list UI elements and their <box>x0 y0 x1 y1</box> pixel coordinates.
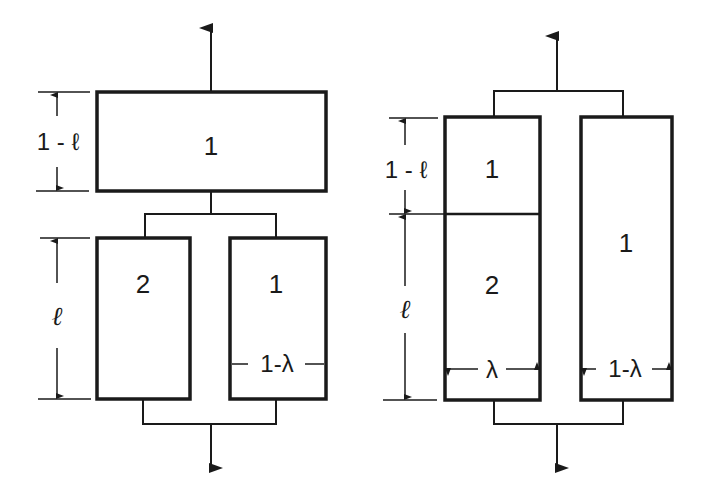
merge-bar <box>143 399 276 424</box>
label-left-lower-box: 2 <box>485 270 499 300</box>
dim-label-l: ℓ <box>52 301 63 331</box>
dim-label-1-minus-lambda: 1-λ <box>608 355 641 382</box>
dim-label-lambda: λ <box>486 356 498 383</box>
right-labels: 1 2 1 1 - ℓ ℓ λ 1-λ <box>385 154 642 383</box>
dim-label-l: ℓ <box>400 294 411 324</box>
left-labels: 1 2 1 1 - ℓ ℓ 1-λ <box>37 128 294 377</box>
merge-bar <box>494 400 623 424</box>
left-diagram <box>36 28 326 468</box>
label-top-box: 1 <box>204 131 218 161</box>
splitter-bar <box>145 214 276 237</box>
label-left-upper-box: 1 <box>485 154 499 184</box>
label-bottom-right-box: 1 <box>269 269 283 299</box>
splitter-bar <box>494 91 623 116</box>
dim-label-1-minus-l: 1 - ℓ <box>37 128 80 155</box>
dim-label-1-minus-l: 1 - ℓ <box>385 156 428 183</box>
label-bottom-left-box: 2 <box>136 269 150 299</box>
dim-label-1-minus-lambda: 1-λ <box>260 350 293 377</box>
diagram-canvas: 1 2 1 1 - ℓ ℓ 1-λ 1 2 1 1 - ℓ ℓ <box>0 0 702 498</box>
box-bottom-left-2 <box>97 238 190 399</box>
label-right-box: 1 <box>619 228 633 258</box>
